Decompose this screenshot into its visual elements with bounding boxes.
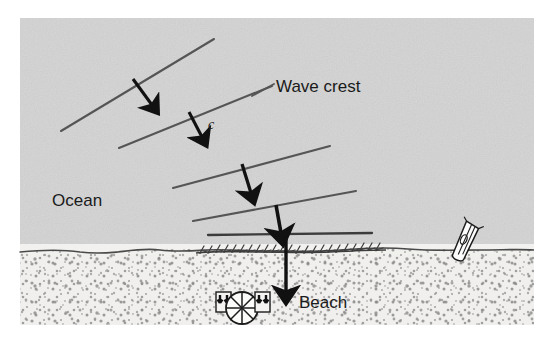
beach-chair-icon-right: [255, 292, 270, 312]
beach-parasol-icon: [226, 292, 258, 324]
scene-illustration: [0, 0, 534, 339]
wave-refraction-figure: Wave crest Ocean Beach c: [0, 0, 534, 339]
